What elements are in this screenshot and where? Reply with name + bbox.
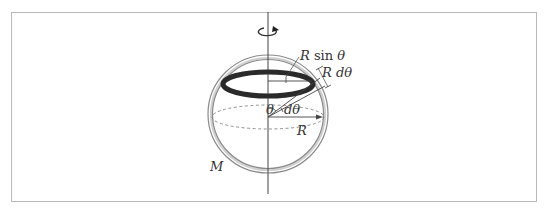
spherical-shell-diagram: R sin θ R dθ θ dθ R M <box>0 0 547 213</box>
label-mass: M <box>209 159 224 174</box>
label-dtheta: dθ <box>284 102 300 117</box>
arrowhead-icon <box>316 115 323 120</box>
label-radius: R <box>296 123 307 138</box>
label-r-dtheta: R dθ <box>321 65 352 80</box>
label-theta: θ <box>266 102 274 117</box>
label-r-sin-theta: R sin θ <box>299 48 345 63</box>
rotation-arrow-icon <box>258 26 279 36</box>
